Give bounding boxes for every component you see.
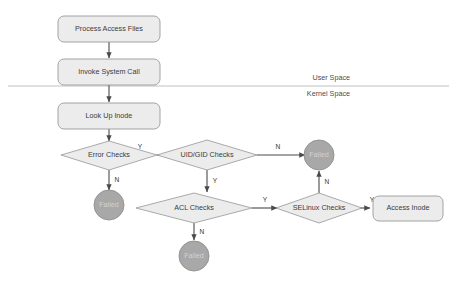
edge-label-acl-yes: Y: [263, 196, 268, 203]
node-label-selinux-checks: SELinux Checks: [293, 203, 346, 212]
node-uid-gid-checks[interactable]: UID/GID Checks: [157, 140, 257, 170]
edge-label-uidgid-no: N: [276, 143, 281, 150]
kernel-space-label: Kernel Space: [307, 89, 350, 98]
node-process-access-files[interactable]: Process Access Files: [58, 16, 160, 42]
flowchart-diagram: User Space Kernel Space Y N N Y Y N: [0, 0, 457, 284]
node-access-inode[interactable]: Access Inode: [373, 196, 443, 221]
node-label-invoke-system-call: Invoke System Call: [78, 67, 140, 76]
node-label-uid-gid-checks: UID/GID Checks: [180, 150, 234, 159]
user-space-label: User Space: [312, 73, 350, 82]
node-failed-error-checks[interactable]: Failed: [94, 190, 124, 220]
node-label-acl-checks: ACL Checks: [174, 203, 214, 212]
edge-label-selinux-no: N: [325, 178, 330, 185]
node-label-failed-acl-checks: Failed: [184, 251, 204, 260]
node-label-failed-error-checks: Failed: [99, 200, 119, 209]
edge-label-errorchecks-no: N: [115, 176, 120, 183]
node-label-process-access-files: Process Access Files: [75, 24, 143, 33]
node-look-up-inode[interactable]: Look Up Inode: [58, 103, 160, 129]
edge-label-acl-no: N: [200, 228, 205, 235]
edge-label-errorchecks-yes: Y: [138, 143, 143, 150]
node-label-look-up-inode: Look Up Inode: [86, 111, 133, 120]
edge-label-uidgid-yes: Y: [213, 177, 218, 184]
node-acl-checks[interactable]: ACL Checks: [136, 193, 252, 223]
node-failed-uid-selinux[interactable]: Failed: [304, 140, 334, 170]
node-failed-acl-checks[interactable]: Failed: [179, 241, 209, 271]
node-error-checks[interactable]: Error Checks: [61, 141, 157, 170]
node-label-error-checks: Error Checks: [88, 150, 130, 159]
node-invoke-system-call[interactable]: Invoke System Call: [58, 59, 160, 85]
node-label-failed-uid-selinux: Failed: [309, 150, 329, 159]
node-label-access-inode: Access Inode: [386, 203, 429, 212]
flowchart-canvas: User Space Kernel Space Y N N Y Y N: [0, 0, 457, 284]
node-selinux-checks[interactable]: SELinux Checks: [276, 193, 362, 223]
